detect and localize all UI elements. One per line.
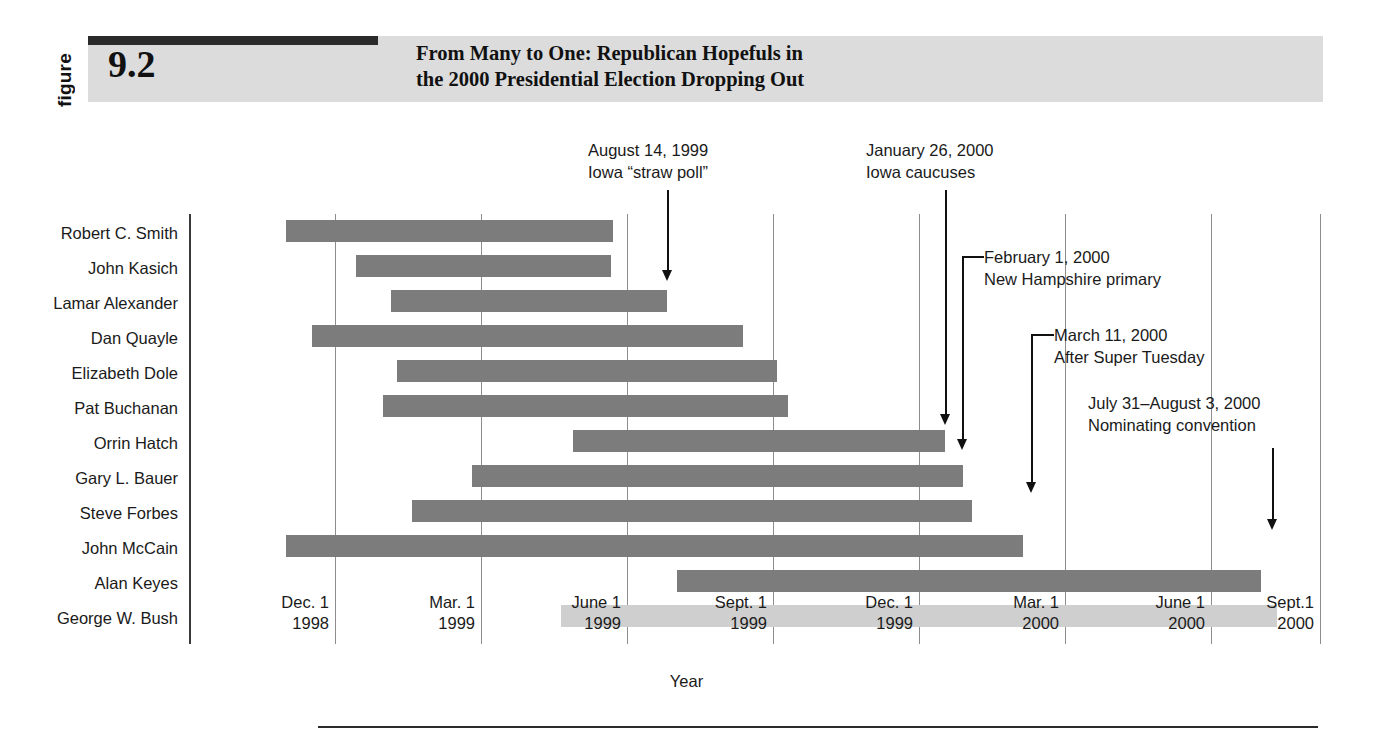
annotation-super-tuesday-line-2: After Super Tuesday (1054, 347, 1204, 369)
annotation-nominating-convention-line-2: Nominating convention (1088, 415, 1260, 437)
bottom-rule (318, 726, 1318, 728)
annotation-nh-primary-line-2: New Hampshire primary (984, 269, 1161, 291)
annotation-straw-poll-arrow-stem (667, 190, 669, 272)
bar-orrin-hatch (573, 430, 945, 452)
annotation-super-tuesday: March 11, 2000 After Super Tuesday (1054, 325, 1204, 369)
bar-john-kasich (356, 255, 611, 277)
gridline-3 (627, 214, 628, 644)
annotation-straw-poll: August 14, 1999 Iowa “straw poll” (588, 140, 708, 184)
bar-elizabeth-dole (397, 360, 777, 382)
gantt-chart: Robert C. Smith John Kasich Lamar Alexan… (0, 0, 1373, 752)
annotation-nominating-convention-line-1: July 31–August 3, 2000 (1088, 393, 1260, 415)
bar-pat-buchanan (383, 395, 788, 417)
annotation-straw-poll-line-2: Iowa “straw poll” (588, 162, 708, 184)
bar-dan-quayle (312, 325, 743, 347)
annotation-nh-primary-elbow-vertical (962, 256, 964, 441)
y-axis-line (189, 214, 191, 644)
annotation-nominating-convention: July 31–August 3, 2000 Nominating conven… (1088, 393, 1260, 437)
annotation-super-tuesday-arrow-head (1026, 482, 1036, 493)
annotation-nh-primary-arrow-head (957, 439, 967, 450)
annotation-super-tuesday-elbow-horizontal (1031, 334, 1054, 336)
annotation-straw-poll-line-1: August 14, 1999 (588, 140, 708, 162)
annotation-iowa-caucuses-line-1: January 26, 2000 (866, 140, 994, 162)
annotation-iowa-caucuses-line-2: Iowa caucuses (866, 162, 994, 184)
gridline-1 (335, 214, 336, 644)
x-axis-title: Year (0, 672, 1373, 691)
figure-page: figure 9.2 From Many to One: Republican … (0, 0, 1373, 752)
annotation-nominating-convention-arrow-head (1267, 519, 1277, 530)
gridline-2 (481, 214, 482, 644)
bar-steve-forbes (412, 500, 972, 522)
bar-john-mccain (286, 535, 1023, 557)
bar-gary-l-bauer (472, 465, 963, 487)
annotation-nh-primary-elbow-horizontal (962, 256, 984, 258)
bar-robert-c-smith (286, 220, 613, 242)
annotation-super-tuesday-line-1: March 11, 2000 (1054, 325, 1204, 347)
annotation-iowa-caucuses-arrow-stem (945, 190, 947, 416)
annotation-iowa-caucuses: January 26, 2000 Iowa caucuses (866, 140, 994, 184)
annotation-iowa-caucuses-arrow-head (940, 414, 950, 425)
bar-lamar-alexander (391, 290, 667, 312)
gridline-8 (1320, 214, 1321, 644)
annotation-straw-poll-arrow-head (662, 270, 672, 281)
bar-alan-keyes (677, 570, 1261, 592)
annotation-super-tuesday-elbow-vertical (1031, 334, 1033, 484)
annotation-nh-primary: February 1, 2000 New Hampshire primary (984, 247, 1161, 291)
annotation-nh-primary-line-1: February 1, 2000 (984, 247, 1161, 269)
annotation-nominating-convention-arrow-stem (1272, 448, 1274, 521)
